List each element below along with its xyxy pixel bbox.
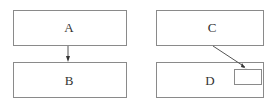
arrow-c-to-d	[213, 46, 248, 69]
arrows-layer	[0, 0, 275, 103]
arrow-a-to-b	[66, 46, 70, 62]
